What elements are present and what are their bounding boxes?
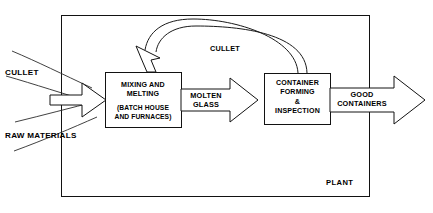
cullet-recycle-label: CULLET — [210, 44, 240, 53]
good-containers-label-line2: CONTAINERS — [337, 99, 387, 108]
cullet-input-label: CULLET — [5, 68, 39, 77]
process-box-mixing-melting-line3: (BATCH HOUSE — [117, 104, 169, 112]
good-containers-label-line1: GOOD — [350, 90, 373, 99]
raw-materials-input-label: RAW MATERIALS — [5, 131, 77, 140]
process-box-container-forming-line1: CONTAINER — [276, 79, 319, 87]
process-flow-diagram: MIXING AND MELTING (BATCH HOUSE AND FURN… — [0, 0, 433, 213]
process-box-mixing-melting-line4: AND FURNACES) — [114, 113, 171, 121]
process-box-container-forming-line4: INSPECTION — [275, 107, 320, 115]
plant-boundary-label: PLANT — [326, 178, 353, 187]
molten-glass-label-line1: MOLTEN — [190, 91, 221, 100]
process-box-container-forming-line2: FORMING — [280, 88, 315, 96]
process-box-container-forming-line3: & — [295, 98, 300, 106]
diagram-canvas: MIXING AND MELTING (BATCH HOUSE AND FURN… — [0, 0, 433, 213]
process-box-mixing-melting-line1: MIXING AND — [121, 81, 165, 89]
molten-glass-label-line2: GLASS — [193, 100, 219, 109]
process-box-mixing-melting-line2: MELTING — [127, 90, 160, 98]
